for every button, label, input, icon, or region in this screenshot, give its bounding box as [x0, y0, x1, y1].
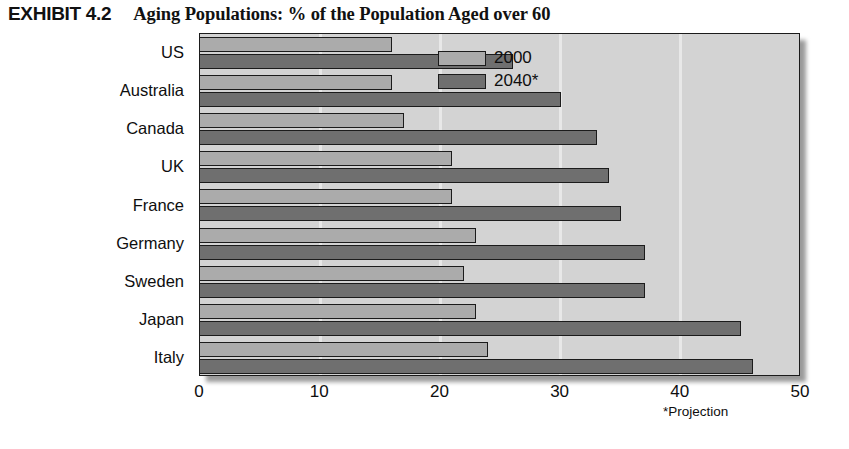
- bar-us-2000: [199, 37, 392, 52]
- bar-group: [200, 110, 799, 148]
- bar-france-2000: [199, 189, 452, 204]
- bar-canada-2000: [199, 113, 404, 128]
- bar-group: [200, 263, 799, 301]
- projection-note: *Projection: [663, 404, 728, 419]
- category-label-italy: Italy: [154, 347, 184, 366]
- x-tick-50: 50: [791, 382, 810, 402]
- bar-italy-2040: [199, 359, 753, 374]
- bar-chart: USAustraliaCanadaUKFranceGermanySwedenJa…: [0, 0, 849, 449]
- category-label-uk: UK: [161, 157, 184, 176]
- category-label-japan: Japan: [139, 309, 184, 328]
- bar-group: [200, 148, 799, 186]
- x-tick-40: 40: [670, 382, 689, 402]
- category-axis: USAustraliaCanadaUKFranceGermanySwedenJa…: [20, 33, 192, 376]
- dark-gray-swatch: [438, 74, 486, 89]
- chart-legend: 20002040*: [438, 48, 538, 91]
- category-label-france: France: [133, 195, 184, 214]
- bar-japan-2040: [199, 321, 741, 336]
- bar-uk-2040: [199, 168, 609, 183]
- bar-group: [200, 339, 799, 376]
- category-label-australia: Australia: [120, 81, 184, 100]
- bar-australia-2040: [199, 92, 561, 107]
- category-label-canada: Canada: [126, 119, 184, 138]
- bar-germany-2040: [199, 245, 645, 260]
- x-tick-30: 30: [550, 382, 569, 402]
- legend-item-2040[interactable]: 2040*: [438, 71, 538, 91]
- category-label-germany: Germany: [116, 233, 184, 252]
- bar-group: [200, 186, 799, 224]
- bar-group: [200, 225, 799, 263]
- bar-uk-2000: [199, 151, 452, 166]
- legend-label: 2000: [494, 48, 532, 68]
- category-label-sweden: Sweden: [124, 271, 184, 290]
- legend-item-2000[interactable]: 2000: [438, 48, 538, 68]
- bar-canada-2040: [199, 130, 597, 145]
- light-gray-swatch: [438, 51, 486, 66]
- bar-group: [200, 301, 799, 339]
- bar-australia-2000: [199, 75, 392, 90]
- category-label-us: US: [161, 43, 184, 62]
- bar-france-2040: [199, 206, 621, 221]
- x-tick-20: 20: [430, 382, 449, 402]
- bar-japan-2000: [199, 304, 476, 319]
- bar-italy-2000: [199, 342, 488, 357]
- bar-sweden-2000: [199, 266, 464, 281]
- bar-germany-2000: [199, 228, 476, 243]
- x-tick-0: 0: [194, 382, 203, 402]
- legend-label: 2040*: [494, 71, 538, 91]
- x-tick-10: 10: [310, 382, 329, 402]
- bar-sweden-2040: [199, 283, 645, 298]
